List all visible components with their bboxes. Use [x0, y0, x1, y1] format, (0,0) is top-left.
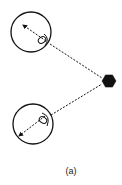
- dashed-link-line: [50, 44, 102, 78]
- direction-arrow: [19, 116, 45, 136]
- direction-arrow: [23, 25, 46, 41]
- lens-ellipse: [38, 115, 48, 125]
- lens-arc: [42, 113, 48, 126]
- lens-ellipse: [37, 35, 47, 45]
- diagram-canvas: [0, 0, 122, 185]
- receiver-top: [11, 12, 102, 78]
- dashed-link-line: [51, 84, 102, 115]
- figure-caption: (a): [0, 166, 122, 176]
- caption-label: (a): [66, 166, 77, 176]
- receiver-bottom: [13, 84, 102, 144]
- receiver-circle: [13, 104, 53, 144]
- source-hexagon-icon: [102, 75, 116, 87]
